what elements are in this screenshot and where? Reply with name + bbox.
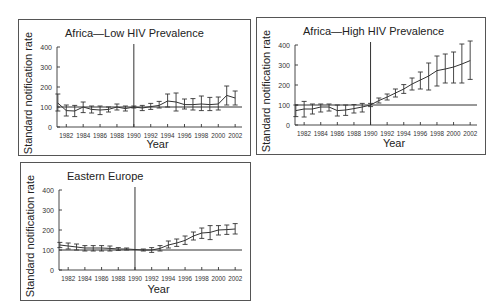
series-errorbars — [293, 41, 472, 117]
x-tick-label: 1996 — [178, 275, 193, 282]
x-tick-label: 1982 — [59, 132, 74, 139]
series-errorbars — [55, 86, 237, 117]
y-tick-label: 400 — [40, 44, 52, 51]
chart-panel-africa-high-hiv: Africa—High HIV PrevalenceStandard notif… — [256, 17, 486, 155]
x-tick-label: 1986 — [330, 130, 345, 137]
x-tick-label: 1996 — [177, 132, 192, 139]
x-tick-label: 1990 — [127, 132, 142, 139]
x-axis-label: Year — [147, 283, 170, 295]
y-tick-label: 300 — [278, 62, 290, 69]
y-tick-label: 200 — [40, 84, 52, 91]
y-axis-label: Standard notification rate — [22, 32, 34, 154]
y-tick-label: 0 — [286, 122, 290, 129]
x-tick-label: 2002 — [228, 132, 243, 139]
x-tick-label: 1994 — [397, 130, 412, 137]
chart-svg: Africa—Low HIV PrevalenceStandard notifi… — [19, 20, 250, 155]
x-tick-label: 1988 — [110, 132, 125, 139]
x-tick-label: 1998 — [194, 132, 209, 139]
x-tick-label: 1994 — [161, 132, 176, 139]
y-axis-label: Standard notification rate — [260, 30, 272, 152]
x-axis-label: Year — [146, 138, 169, 150]
x-tick-label: 1988 — [111, 275, 126, 282]
x-tick-label: 2000 — [211, 132, 226, 139]
chart-title: Africa—High HIV Prevalence — [303, 25, 444, 37]
x-tick-label: 1986 — [95, 275, 110, 282]
x-tick-label: 1992 — [145, 275, 160, 282]
x-tick-label: 2002 — [228, 275, 243, 282]
x-tick-label: 1998 — [430, 130, 445, 137]
y-axis-label: Standard notification rate — [24, 175, 36, 297]
y-tick-label: 100 — [42, 247, 54, 254]
x-axis-label: Year — [383, 137, 406, 149]
x-tick-label: 1984 — [314, 130, 329, 137]
y-tick-label: 300 — [42, 207, 54, 214]
y-tick-label: 0 — [48, 124, 52, 131]
x-tick-label: 1990 — [364, 130, 379, 137]
chart-panel-eastern-europe: Eastern EuropeStandard notification rate… — [20, 162, 251, 301]
x-tick-label: 1992 — [380, 130, 395, 137]
x-tick-label: 1988 — [347, 130, 362, 137]
x-tick-label: 1992 — [144, 132, 159, 139]
y-tick-label: 200 — [278, 82, 290, 89]
x-tick-label: 1984 — [76, 132, 91, 139]
chart-panel-africa-low-hiv: Africa—Low HIV PrevalenceStandard notifi… — [18, 19, 251, 156]
chart-svg: Eastern EuropeStandard notification rate… — [21, 163, 250, 300]
x-tick-label: 2002 — [463, 130, 478, 137]
x-tick-label: 1982 — [297, 130, 312, 137]
chart-title: Africa—Low HIV Prevalence — [65, 27, 204, 39]
x-tick-label: 1990 — [128, 275, 143, 282]
axes — [59, 190, 242, 270]
axes — [295, 45, 477, 125]
series-line — [296, 61, 470, 111]
y-tick-label: 400 — [278, 42, 290, 49]
x-tick-label: 1986 — [93, 132, 108, 139]
y-tick-label: 400 — [42, 187, 54, 194]
x-tick-label: 1998 — [195, 275, 210, 282]
y-tick-label: 300 — [40, 64, 52, 71]
x-tick-label: 2000 — [447, 130, 462, 137]
axes — [57, 47, 242, 127]
x-tick-label: 1994 — [161, 275, 176, 282]
chart-title: Eastern Europe — [67, 170, 143, 182]
x-tick-label: 1996 — [413, 130, 428, 137]
x-tick-label: 1982 — [61, 275, 76, 282]
x-tick-label: 2000 — [211, 275, 226, 282]
chart-svg: Africa—High HIV PrevalenceStandard notif… — [257, 18, 485, 154]
y-tick-label: 100 — [40, 104, 52, 111]
y-tick-label: 100 — [278, 102, 290, 109]
x-tick-label: 1984 — [78, 275, 93, 282]
y-tick-label: 200 — [42, 227, 54, 234]
y-tick-label: 0 — [50, 267, 54, 274]
